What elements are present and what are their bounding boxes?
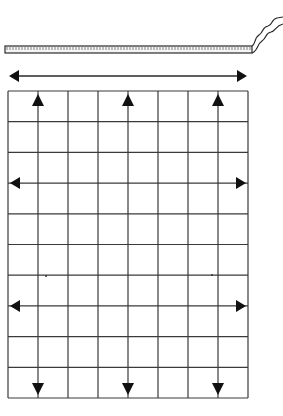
arrow-down-icon — [212, 383, 224, 395]
arrow-up-icon — [32, 94, 44, 106]
speck — [45, 275, 47, 277]
arrow-right-icon — [236, 300, 246, 312]
arrow-down-icon — [122, 383, 134, 395]
arrow-left-icon — [9, 70, 19, 82]
arrow-left-icon — [10, 300, 20, 312]
arrow-right-icon — [237, 70, 247, 82]
arrow-left-icon — [10, 177, 20, 189]
arrow-down-icon — [32, 383, 44, 395]
arrow-up-icon — [122, 94, 134, 106]
grid — [8, 91, 248, 398]
arrow-right-icon — [236, 177, 246, 189]
grid-diagram — [0, 0, 283, 416]
speck — [211, 274, 213, 276]
arrow-up-icon — [212, 94, 224, 106]
measuring-tape — [5, 17, 283, 53]
tape-body — [5, 46, 252, 53]
tape-curl-top — [252, 17, 283, 46]
top-double-arrow-icon — [9, 70, 247, 82]
